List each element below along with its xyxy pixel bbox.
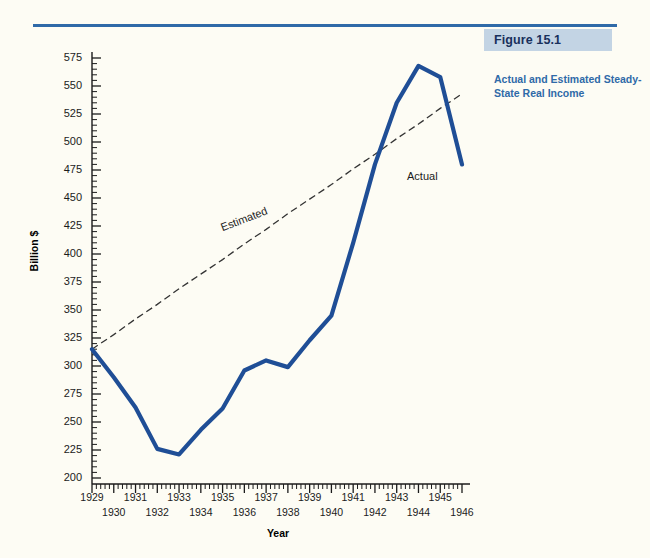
y-tick-label: 325	[48, 331, 82, 343]
figure-page: Figure 15.1 Actual and Estimated Steady-…	[0, 0, 650, 558]
annotation-estimated: Estimated	[219, 204, 269, 233]
y-tick-label: 250	[48, 415, 82, 427]
y-tick-label: 225	[48, 443, 82, 455]
x-tick-label: 1931	[119, 491, 153, 503]
x-tick-label: 1945	[423, 491, 457, 503]
y-tick-label: 200	[48, 471, 82, 483]
y-tick-label: 525	[48, 107, 82, 119]
y-axis-title: Billion $	[28, 216, 40, 286]
x-tick-label: 1937	[249, 491, 283, 503]
x-tick-label: 1939	[293, 491, 327, 503]
x-tick-label: 1929	[75, 491, 109, 503]
x-tick-label: 1938	[271, 506, 305, 518]
x-tick-label: 1942	[358, 506, 392, 518]
figure-caption: Actual and Estimated Steady-State Real I…	[494, 72, 644, 100]
x-axis-minor-ticks	[96, 484, 457, 489]
y-tick-label: 450	[48, 191, 82, 203]
x-tick-label: 1932	[140, 506, 174, 518]
y-tick-label: 500	[48, 135, 82, 147]
series-line-estimated	[92, 94, 462, 349]
x-tick-label: 1930	[97, 506, 131, 518]
x-tick-label: 1941	[336, 491, 370, 503]
y-tick-label: 275	[48, 387, 82, 399]
y-tick-label: 400	[48, 247, 82, 259]
y-tick-label: 350	[48, 303, 82, 315]
figure-number-label: Figure 15.1	[494, 32, 561, 48]
y-tick-label: 375	[48, 275, 82, 287]
y-axis-major-ticks	[92, 58, 101, 478]
top-rule-divider	[33, 24, 617, 27]
x-tick-label: 1936	[227, 506, 261, 518]
x-tick-label: 1933	[162, 491, 196, 503]
y-tick-label: 575	[48, 51, 82, 63]
x-tick-label: 1946	[445, 506, 479, 518]
series-line-actual	[92, 66, 462, 455]
x-tick-label: 1935	[206, 491, 240, 503]
annotation-actual: Actual	[407, 170, 438, 182]
y-tick-label: 425	[48, 219, 82, 231]
y-tick-label: 475	[48, 163, 82, 175]
x-tick-label: 1940	[314, 506, 348, 518]
y-tick-label: 550	[48, 79, 82, 91]
x-axis-title: Year	[233, 527, 323, 539]
x-tick-label: 1943	[380, 491, 414, 503]
axis-lines	[92, 52, 470, 484]
y-tick-label: 300	[48, 359, 82, 371]
y-axis-minor-ticks	[92, 64, 97, 473]
x-tick-label: 1934	[184, 506, 218, 518]
x-tick-label: 1944	[401, 506, 435, 518]
